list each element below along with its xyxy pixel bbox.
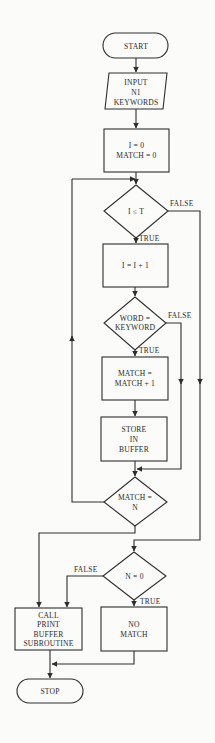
- call-label-1: CALL: [38, 611, 59, 620]
- cond-i-label: I ≤ T: [128, 207, 144, 216]
- input-label-2: N1: [131, 88, 141, 97]
- cond-word-label-1: WORD =: [120, 314, 151, 323]
- incr-label: I = I + 1: [122, 261, 149, 270]
- cond-match-label-2: N: [132, 503, 138, 512]
- store-label-1: STORE: [122, 425, 147, 434]
- cond-word-false-label: FALSE: [168, 311, 192, 320]
- store-label-2: IN: [130, 435, 139, 444]
- cond-i-decision: I ≤ T: [104, 185, 168, 238]
- call-label-3: BUFFER: [34, 630, 65, 639]
- cond-word-label-2: KEYWORD: [115, 323, 156, 332]
- stop-terminator: STOP: [17, 679, 83, 703]
- edge-loop-back: [72, 179, 104, 502]
- edge-no-match-stop: [52, 651, 134, 664]
- cond-word-decision: WORD = KEYWORD: [104, 297, 166, 350]
- cond-match-label-1: MATCH =: [118, 493, 152, 502]
- cond-n-false-label: FALSE: [74, 565, 98, 574]
- cond-n-decision: N = 0: [103, 552, 166, 600]
- init-process: I = 0 MATCH = 0: [104, 129, 169, 172]
- init-label-1: I = 0: [129, 141, 144, 150]
- match-incr-label-1: MATCH =: [118, 369, 152, 378]
- cond-n-label: N = 0: [125, 572, 143, 581]
- input-label-1: INPUT: [124, 78, 148, 87]
- call-label-2: PRINT: [37, 620, 60, 629]
- input-keywords-io: INPUT N1 KEYWORDS: [105, 73, 167, 109]
- cond-i-false-label: FALSE: [170, 199, 194, 208]
- match-increment-process: MATCH = MATCH + 1: [102, 357, 168, 400]
- init-label-2: MATCH = 0: [116, 151, 156, 160]
- cond-n-true-label: TRUE: [140, 597, 161, 606]
- flowchart: START INPUT N1 KEYWORDS I = 0 MATCH = 0 …: [0, 0, 215, 743]
- call-print-buffer-process: CALL PRINT BUFFER SUBROUTINE: [15, 608, 82, 650]
- no-match-label-2: MATCH: [120, 630, 148, 639]
- store-label-3: BUFFER: [119, 445, 150, 454]
- start-terminator: START: [103, 33, 168, 58]
- no-match-process: NO MATCH: [101, 607, 167, 651]
- store-buffer-process: STORE IN BUFFER: [101, 417, 167, 461]
- cond-word-true-label: TRUE: [139, 346, 160, 355]
- start-label: START: [124, 42, 148, 51]
- no-match-label-1: NO: [128, 620, 140, 629]
- call-label-4: SUBROUTINE: [23, 639, 73, 648]
- stop-label: STOP: [40, 687, 59, 696]
- match-incr-label-2: MATCH + 1: [115, 379, 155, 388]
- edge-cond-n-false: [67, 576, 103, 607]
- increment-process: I = I + 1: [103, 244, 168, 287]
- cond-i-true-label: TRUE: [139, 234, 160, 243]
- input-label-3: KEYWORDS: [114, 98, 159, 107]
- cond-match-decision: MATCH = N: [104, 477, 167, 526]
